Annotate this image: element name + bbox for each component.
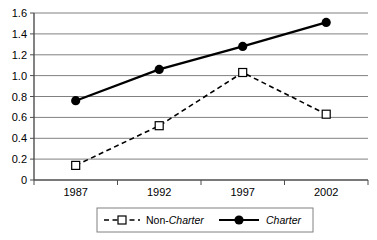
line-chart: 1.6 1.4 1.2 1.0 0.8 0.6 0.4 0.2 0 1987 1…: [0, 0, 377, 240]
y-tick-label: 1.4: [12, 28, 27, 40]
legend-label-prefix: Non-: [146, 214, 169, 226]
y-tick-label: 0.4: [12, 132, 27, 144]
y-tick-label: 1.2: [12, 49, 27, 61]
legend-label-italic: Charter: [169, 214, 205, 226]
y-tick-label: 0: [21, 174, 27, 186]
x-tick-label: 1992: [147, 186, 171, 198]
data-point-charter-2002: [322, 18, 331, 27]
y-tick-label: 0.8: [12, 91, 27, 103]
y-axis-labels: 1.6 1.4 1.2 1.0 0.8 0.6 0.4 0.2 0: [12, 7, 27, 186]
x-tick-label: 2002: [314, 186, 338, 198]
legend: Non-Charter Charter: [97, 208, 313, 232]
data-point-charter-1997: [238, 42, 247, 51]
x-tick-label: 1997: [230, 186, 254, 198]
legend-marker-filled-circle-icon: [234, 215, 243, 224]
data-point-charter-1987: [71, 96, 80, 105]
legend-label-charter: Charter: [266, 214, 302, 226]
data-point-non-charter-1997: [239, 69, 247, 77]
x-tick-label: 1987: [63, 186, 87, 198]
data-point-charter-1992: [155, 65, 164, 74]
data-point-non-charter-1987: [72, 161, 80, 169]
y-tick-label: 0.2: [12, 153, 27, 165]
x-axis-ticks: [34, 180, 368, 185]
y-tick-label: 0.6: [12, 111, 27, 123]
data-point-non-charter-2002: [322, 110, 330, 118]
legend-item-non-charter[interactable]: Non-Charter: [104, 214, 204, 226]
data-point-non-charter-1992: [155, 122, 163, 130]
legend-marker-open-square-icon: [118, 216, 126, 224]
legend-label-non-charter: Non-Charter: [146, 214, 204, 226]
x-axis-labels: 1987 1992 1997 2002: [63, 186, 338, 198]
y-tick-label: 1.6: [12, 7, 27, 19]
y-tick-label: 1.0: [12, 70, 27, 82]
chart-container: 1.6 1.4 1.2 1.0 0.8 0.6 0.4 0.2 0 1987 1…: [0, 0, 377, 240]
